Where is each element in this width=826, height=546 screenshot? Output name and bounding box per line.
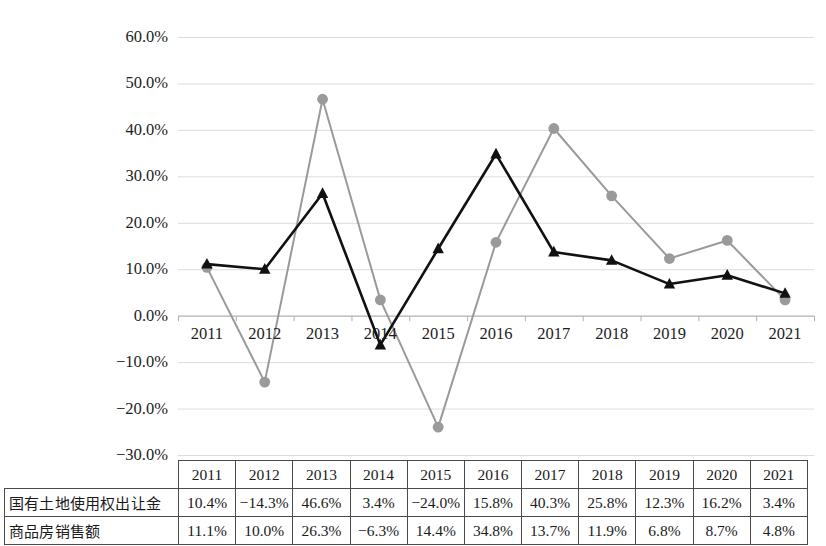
table-cell: 25.8%: [579, 489, 636, 517]
data-point-marker: [606, 190, 617, 201]
data-point-marker: [259, 377, 270, 388]
x-axis-ticks: [179, 316, 815, 321]
x-axis-tick-label: 2021: [756, 326, 814, 343]
table-cell: 46.6%: [293, 489, 350, 517]
table-row-label: 国有土地使用权出让金: [5, 489, 179, 517]
table-row: 商品房销售额11.1%10.0%26.3%−6.3%14.4%34.8%13.7…: [5, 517, 808, 545]
table-column-header: 2018: [579, 461, 636, 489]
y-axis-tick-label: 10.0%: [125, 261, 168, 278]
table-cell: 15.8%: [464, 489, 521, 517]
series-land-transfer: [202, 94, 791, 433]
y-axis-tick-label: 20.0%: [125, 215, 168, 232]
y-axis-tick-label: −20.0%: [116, 401, 168, 418]
data-table-container: 2011201220132014201520162017201820192020…: [4, 460, 807, 545]
table-cell: −14.3%: [236, 489, 293, 517]
data-point-marker: [317, 187, 328, 198]
table-column-header: 2012: [236, 461, 293, 489]
table-cell: 10.0%: [236, 517, 293, 545]
data-point-marker: [317, 94, 328, 105]
x-axis-tick-label: 2013: [294, 326, 352, 343]
table-header-row: 2011201220132014201520162017201820192020…: [5, 461, 808, 489]
data-point-marker: [722, 269, 733, 280]
data-table: 2011201220132014201520162017201820192020…: [4, 460, 808, 545]
table-column-header: 2021: [750, 461, 807, 489]
chart-container: 60.0%50.0%40.0%30.0%20.0%10.0%0.0%−10.0%…: [0, 0, 826, 460]
data-point-marker: [433, 422, 444, 433]
table-cell: −6.3%: [350, 517, 407, 545]
table-column-header: 2017: [522, 461, 579, 489]
line-chart: [0, 0, 826, 460]
table-cell: 14.4%: [407, 517, 464, 545]
x-axis-tick-label: 2017: [525, 326, 583, 343]
data-point-marker: [491, 237, 502, 248]
table-cell: 34.8%: [464, 517, 521, 545]
table-column-header: 2011: [179, 461, 236, 489]
table-cell: 26.3%: [293, 517, 350, 545]
table-row-label: 商品房销售额: [5, 517, 179, 545]
y-axis-tick-label: 0.0%: [134, 308, 168, 325]
table-cell: −24.0%: [407, 489, 464, 517]
table-cell: 40.3%: [522, 489, 579, 517]
table-column-header: 2014: [350, 461, 407, 489]
x-axis-tick-label: 2011: [178, 326, 236, 343]
table-column-header: 2015: [407, 461, 464, 489]
table-column-header: 2019: [636, 461, 693, 489]
x-axis-tick-label: 2014: [351, 326, 409, 343]
x-axis-tick-label: 2012: [236, 326, 294, 343]
table-column-header: 2016: [464, 461, 521, 489]
y-axis-tick-label: −10.0%: [116, 354, 168, 371]
y-axis-tick-label: 60.0%: [125, 29, 168, 46]
table-column-header: 2013: [293, 461, 350, 489]
y-axis-tick-label: 30.0%: [125, 168, 168, 185]
data-point-marker: [375, 294, 386, 305]
y-axis-tick-label: 40.0%: [125, 122, 168, 139]
table-cell: 11.1%: [179, 517, 236, 545]
table-cell: 3.4%: [750, 489, 807, 517]
table-cell: 11.9%: [579, 517, 636, 545]
table-column-header: 2020: [693, 461, 750, 489]
table-cell: 6.8%: [636, 517, 693, 545]
data-point-marker: [548, 123, 559, 134]
table-cell: 8.7%: [693, 517, 750, 545]
table-cell: 3.4%: [350, 489, 407, 517]
data-point-marker: [722, 235, 733, 246]
y-axis-tick-label: 50.0%: [125, 75, 168, 92]
table-corner-cell: [5, 461, 179, 489]
table-cell: 12.3%: [636, 489, 693, 517]
table-row: 国有土地使用权出让金10.4%−14.3%46.6%3.4%−24.0%15.8…: [5, 489, 808, 517]
x-axis-tick-label: 2020: [698, 326, 756, 343]
x-axis-tick-label: 2016: [467, 326, 525, 343]
data-point-marker: [490, 148, 501, 159]
table-cell: 10.4%: [179, 489, 236, 517]
data-point-marker: [664, 253, 675, 264]
table-cell: 16.2%: [693, 489, 750, 517]
x-axis-tick-label: 2015: [409, 326, 467, 343]
x-axis-tick-label: 2019: [641, 326, 699, 343]
table-cell: 13.7%: [522, 517, 579, 545]
x-axis-tick-label: 2018: [583, 326, 641, 343]
table-cell: 4.8%: [750, 517, 807, 545]
